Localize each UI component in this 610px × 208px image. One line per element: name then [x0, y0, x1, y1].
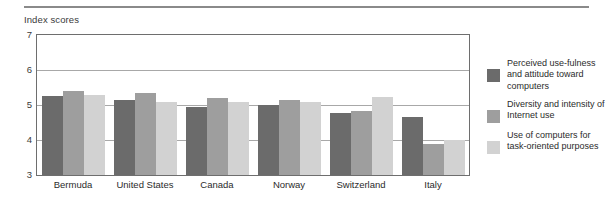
x-axis-labels: BermudaUnited StatesCanadaNorwaySwitzerl… — [37, 179, 469, 190]
bar — [228, 102, 249, 176]
bar — [114, 100, 135, 175]
x-tick-label: Norway — [253, 179, 325, 190]
bar-groups — [37, 35, 469, 175]
y-tick-label: 3 — [4, 169, 32, 180]
header-rule — [24, 6, 589, 8]
legend-item: Perceived use-fulness and attitude towar… — [487, 58, 605, 92]
legend-item: Diversity and intensity of Internet use — [487, 99, 605, 123]
y-axis-title: Index scores — [24, 14, 79, 25]
bar — [423, 144, 444, 176]
bar-group — [325, 35, 397, 175]
x-tick-label: Italy — [397, 179, 469, 190]
x-tick-label: Bermuda — [37, 179, 109, 190]
chart-figure: Index scores 76543 BermudaUnited StatesC… — [0, 0, 610, 208]
y-tick-label: 4 — [4, 134, 32, 145]
x-tick-label: United States — [109, 179, 181, 190]
legend-item: Use of computers for task-oriented purpo… — [487, 130, 605, 154]
bar — [186, 107, 207, 175]
bar-group — [181, 35, 253, 175]
legend-label: Diversity and intensity of Internet use — [507, 99, 605, 122]
bar — [330, 113, 351, 175]
bar — [207, 98, 228, 175]
legend-swatch-series-task-oriented — [487, 141, 500, 154]
bar — [258, 105, 279, 175]
legend-label: Use of computers for task-oriented purpo… — [507, 130, 605, 153]
bar-group — [109, 35, 181, 175]
legend-label: Perceived use-fulness and attitude towar… — [507, 58, 605, 92]
bar — [135, 93, 156, 175]
bar — [300, 102, 321, 176]
bar — [63, 91, 84, 175]
bar — [351, 111, 372, 175]
y-axis-ticks: 76543 — [0, 34, 32, 176]
legend-swatch-series-perceived-usefulness — [487, 69, 500, 82]
bar-group — [37, 35, 109, 175]
y-tick-label: 6 — [4, 64, 32, 75]
bar — [372, 97, 393, 175]
x-tick-label: Canada — [181, 179, 253, 190]
bar — [42, 96, 63, 175]
bar-group — [253, 35, 325, 175]
bar — [156, 102, 177, 176]
bar-group — [397, 35, 469, 175]
chart-legend: Perceived use-fulness and attitude towar… — [487, 58, 605, 161]
x-tick-label: Switzerland — [325, 179, 397, 190]
bar — [402, 117, 423, 175]
legend-swatch-series-diversity-intensity — [487, 110, 500, 123]
y-tick-label: 5 — [4, 99, 32, 110]
y-tick-label: 7 — [4, 29, 32, 40]
bar — [84, 95, 105, 176]
bar — [444, 140, 465, 175]
bar — [279, 100, 300, 175]
